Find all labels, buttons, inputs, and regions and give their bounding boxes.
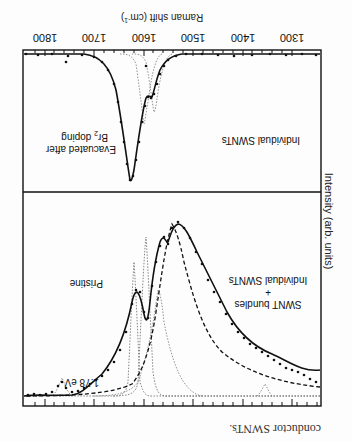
bundles-label: SWNT bundles [222,298,314,310]
doped-panel [24,53,320,182]
x-tick-labels: 1300 1400 1500 1600 1700 1800 [33,32,304,44]
x-axis-label-close: ) [121,12,124,23]
plus-label: + [222,286,314,298]
energy-label: 1.78 eV [65,376,99,388]
x-tick-1400: 1400 [231,32,255,44]
x-axis-label-sup: -1 [124,17,130,24]
br-subscript: 2 [94,130,98,137]
br-text: Br [98,132,108,143]
raman-spectra-plot: 1300 1400 1500 1600 1700 1800 [0,0,352,442]
doped-label-line1: Evacuated after [46,143,116,155]
x-tick-1600: 1600 [132,32,156,44]
x-tick-1300: 1300 [280,32,304,44]
pristine-fit-legend: SWNT bundles + Individual SWNTs [222,274,314,310]
y-axis-label: Intensity (arb. units) [323,161,335,281]
doped-fit-label: Individual SWNTs [222,134,300,146]
doping-text: doping [61,132,94,143]
x-tick-1800: 1800 [33,32,57,44]
top-axis-ticks [35,399,317,406]
figure-stage: conductor SWNTs. [0,0,352,442]
x-axis-label: Raman shift (cm-1) [102,12,222,24]
individual-label: Individual SWNTs [222,274,314,286]
x-tick-1500: 1500 [181,32,205,44]
doped-label-line2: Br2 doping [46,127,116,143]
x-tick-1700: 1700 [82,32,106,44]
x-axis-label-text: Raman shift (cm [130,12,203,23]
bottom-axis-ticks [35,50,292,56]
pristine-label: Pristine [70,277,103,289]
doped-sample-label: Evacuated after Br2 doping [46,127,116,155]
